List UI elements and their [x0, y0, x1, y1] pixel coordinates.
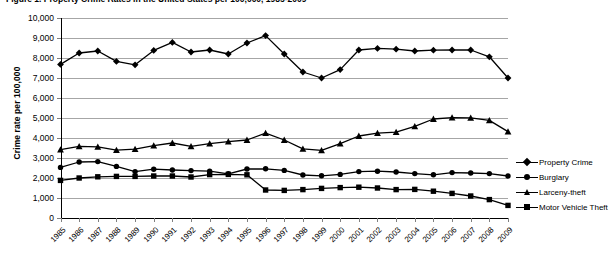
legend-item[interactable]: Larceny-theft	[516, 185, 612, 200]
property-crime-line-chart: Figure 1. Property Crime Rates in the Un…	[0, 0, 612, 254]
legend-item[interactable]: Property Crime	[516, 155, 612, 170]
diamond-marker	[523, 158, 531, 166]
circle-marker	[524, 174, 530, 180]
x-axis-tick-labels: 1985198619871988198919901991199219931994…	[0, 0, 612, 254]
legend-label: Property Crime	[538, 158, 593, 167]
square-marker	[524, 204, 530, 210]
legend-swatch	[516, 202, 538, 214]
legend-swatch	[516, 187, 538, 199]
legend-item[interactable]: Motor Vehicle Theft	[516, 200, 612, 215]
triangle-marker	[524, 189, 530, 195]
legend-label: Larceny-theft	[538, 188, 586, 197]
legend-swatch	[516, 157, 538, 169]
legend-label: Burglary	[538, 173, 569, 182]
legend-swatch	[516, 172, 538, 184]
legend-label: Motor Vehicle Theft	[538, 203, 608, 212]
legend-item[interactable]: Burglary	[516, 170, 612, 185]
chart-legend: Property CrimeBurglaryLarceny-theftMotor…	[516, 155, 612, 215]
